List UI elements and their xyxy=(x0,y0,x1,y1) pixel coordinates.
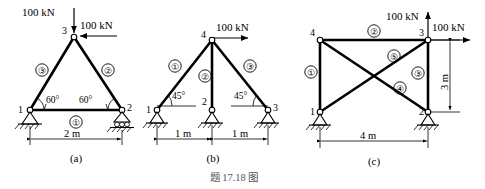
subfigure-label-a: (a) xyxy=(70,152,83,165)
member-label-b-2: ② xyxy=(201,72,209,82)
load-label-horizontal-a: 100 kN xyxy=(80,19,113,31)
node-label-c-1: 1 xyxy=(310,106,315,117)
subfigure-a: 100 kN 100 kN ① ② ③ 3 1 2 60° 60° xyxy=(15,6,134,165)
dimension-label-b-left: 1 m xyxy=(175,128,191,139)
dimension-label-c-span: 4 m xyxy=(360,130,376,141)
member-label-c-1: ① xyxy=(307,68,315,78)
member-label-b-3: ③ xyxy=(246,62,254,72)
truss-figure: 100 kN 100 kN ① ② ③ 3 1 2 60° 60° xyxy=(0,0,485,189)
dimension-label-c-height: 3 m xyxy=(439,74,450,90)
node-dot-a-3 xyxy=(71,34,77,40)
node-label-a-1: 1 xyxy=(18,104,23,115)
member-label-c-4: ④ xyxy=(396,84,404,94)
subfigure-c: 100 kN 100 kN ① ② ③ ④ ⑤ 4 3 1 2 xyxy=(305,10,470,168)
subfigure-label-b: (b) xyxy=(207,152,220,165)
member-label-c-3: ③ xyxy=(414,69,422,79)
node-label-c-3: 3 xyxy=(419,27,424,38)
support-pin-c-2 xyxy=(414,114,439,130)
load-label-vertical-c: 100 kN xyxy=(386,10,419,22)
node-label-a-2: 2 xyxy=(127,102,132,113)
member-label-a-3: ③ xyxy=(38,66,46,76)
node-label-c-2: 2 xyxy=(419,106,424,117)
node-label-b-4: 4 xyxy=(201,29,206,40)
subfigure-label-c: (c) xyxy=(368,155,381,168)
angle-arc-a-1 xyxy=(37,98,44,110)
member-label-b-1: ① xyxy=(171,62,179,72)
node-label-b-1: 1 xyxy=(146,104,151,115)
node-dot-b-4 xyxy=(209,37,215,43)
support-pin-b-3 xyxy=(254,112,279,128)
angle-label-b-2: 45° xyxy=(234,91,248,101)
member-label-a-1: ① xyxy=(72,118,80,128)
member-label-a-2: ② xyxy=(104,66,112,76)
load-label-horizontal-b: 100 kN xyxy=(216,21,249,33)
node-label-a-3: 3 xyxy=(62,25,67,36)
load-label-horizontal-c: 100 kN xyxy=(432,21,465,33)
node-dot-c-3 xyxy=(425,37,431,43)
dimension-label-a-span: 2 m xyxy=(64,128,80,139)
figure-caption: 题 17.18 图 xyxy=(210,172,259,183)
angle-label-a-2: 60° xyxy=(79,95,93,105)
node-label-c-4: 4 xyxy=(310,27,315,38)
dimension-label-b-right: 1 m xyxy=(232,128,248,139)
node-label-b-2: 2 xyxy=(202,96,207,107)
angle-label-a-1: 60° xyxy=(46,95,60,105)
node-label-b-3: 3 xyxy=(273,102,278,113)
node-dot-c-4 xyxy=(317,37,323,43)
angle-label-b-1: 45° xyxy=(172,91,186,101)
subfigure-b: 100 kN ① ② ③ 4 1 2 3 45° 45° xyxy=(143,21,279,165)
member-label-c-5: ⑤ xyxy=(390,52,398,62)
member-label-c-2: ② xyxy=(370,27,378,37)
load-label-vertical-a: 100 kN xyxy=(22,6,55,18)
support-pin-b-2 xyxy=(198,112,223,128)
support-roller-a-2 xyxy=(107,112,134,132)
